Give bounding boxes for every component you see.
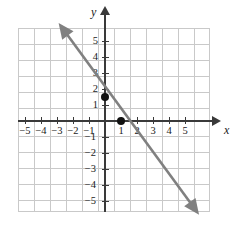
line-segment [66, 33, 192, 205]
plotted-point-y-intercept [101, 93, 109, 101]
plotted-line [0, 0, 240, 227]
plotted-point-x-intercept [117, 117, 125, 125]
linear-graph-figure: −5 −4 −3 −2 −1 1 2 3 4 5 5 4 3 2 1 −1 −2… [0, 0, 240, 227]
